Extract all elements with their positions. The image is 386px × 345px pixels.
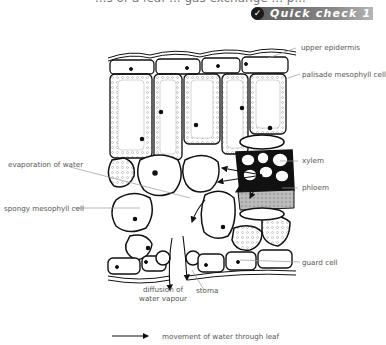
label-guard-cell: guard cell	[302, 258, 338, 267]
label-diffusion-line2: water vapour	[133, 294, 193, 303]
upper-epidermis	[108, 49, 296, 74]
label-stoma: stoma	[196, 286, 218, 295]
label-diffusion-line1: diffusion of	[133, 285, 193, 294]
label-phloem: phloem	[302, 183, 329, 192]
label-diffusion: diffusion of water vapour	[133, 285, 193, 303]
label-evaporation: evaporation of water	[8, 160, 83, 169]
label-spongy-mesophyll: spongy mesophyll cell	[4, 204, 84, 213]
guard-cell-left	[156, 251, 170, 265]
label-palisade-mesophyll: palisade mesophyll cell	[302, 70, 386, 79]
label-upper-epidermis: upper epidermis	[301, 43, 360, 52]
label-xylem: xylem	[302, 156, 324, 165]
legend-text: movement of water through leaf	[162, 332, 279, 341]
